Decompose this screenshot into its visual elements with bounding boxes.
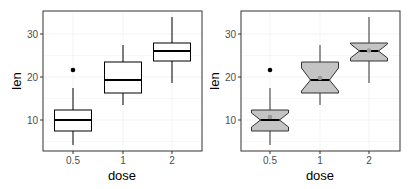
y-tick-label-10: 10 xyxy=(27,115,39,126)
y-axis-title: len xyxy=(207,72,222,89)
y-tick-label-20: 20 xyxy=(225,72,237,83)
outlier-point xyxy=(71,68,76,73)
axis-ticks xyxy=(238,34,369,154)
x-axis-title: dose xyxy=(306,168,334,183)
x-tick-label-0.5: 0.5 xyxy=(263,155,277,166)
x-tick-label-2: 2 xyxy=(366,155,372,166)
x-tick-label-1: 1 xyxy=(120,155,126,166)
x-tick-label-1: 1 xyxy=(317,155,323,166)
x-tick-label-0.5: 0.5 xyxy=(66,155,80,166)
y-tick-label-30: 30 xyxy=(27,29,39,40)
outlier-point xyxy=(268,68,273,73)
y-axis-title: len xyxy=(9,72,24,89)
notched-box-dose-1 xyxy=(302,45,339,105)
axis-ticks xyxy=(40,34,172,154)
y-tick-label-10: 10 xyxy=(225,115,237,126)
box-dose-2 xyxy=(154,17,191,83)
x-tick-label-2: 2 xyxy=(169,155,175,166)
box-dose-1 xyxy=(105,45,142,105)
left-panel: 30 20 10 0.5 1 2 dose len xyxy=(9,11,202,183)
notched-box-dose-2 xyxy=(351,17,388,83)
mean-marker xyxy=(318,76,323,81)
mean-marker xyxy=(367,48,372,53)
y-tick-label-20: 20 xyxy=(27,72,39,83)
boxplot-figure: 30 20 10 0.5 1 2 dose len xyxy=(0,0,413,189)
mean-marker xyxy=(268,115,273,120)
y-tick-label-30: 30 xyxy=(225,29,237,40)
x-axis-title: dose xyxy=(108,168,136,183)
right-panel: 30 20 10 0.5 1 2 dose len xyxy=(207,11,400,183)
